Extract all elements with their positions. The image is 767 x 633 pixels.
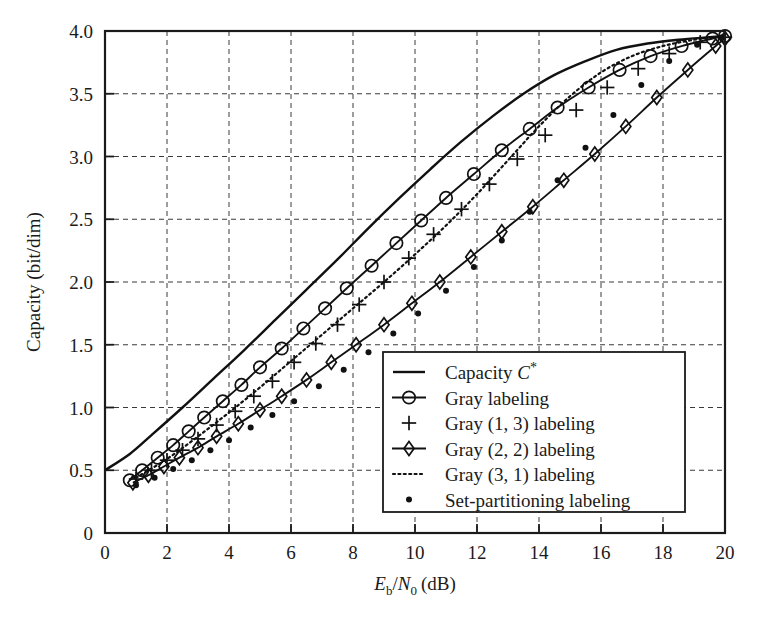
x-tick-label: 2	[162, 542, 172, 563]
marker-dot	[471, 264, 477, 270]
legend-item-label: Gray (2, 2) labeling	[445, 439, 595, 461]
marker-plus	[538, 128, 552, 142]
x-axis-eb-symbol: E	[373, 573, 386, 594]
marker-plus	[482, 177, 496, 191]
marker-dot	[406, 497, 412, 503]
y-tick-label: 3.5	[69, 84, 93, 105]
marker-dot	[666, 58, 672, 64]
y-axis-title: Capacity (bit/dim)	[23, 212, 45, 352]
x-tick-label: 16	[592, 542, 611, 563]
marker-dot	[610, 112, 616, 118]
y-tick-label: 2.5	[69, 209, 93, 230]
x-axis-0-subscript: 0	[410, 583, 417, 598]
marker-dot	[341, 367, 347, 373]
marker-dot	[443, 288, 449, 294]
x-tick-label: 20	[716, 542, 735, 563]
legend-item-label: Gray (1, 3) labeling	[445, 413, 595, 435]
marker-dot	[366, 349, 372, 355]
x-tick-label: 4	[224, 542, 234, 563]
x-tick-label: 6	[286, 542, 296, 563]
marker-dot	[170, 466, 176, 472]
capacity-chart-figure: 02468101214161820 00.51.01.52.02.53.03.5…	[0, 0, 767, 633]
marker-dot	[269, 412, 275, 418]
x-tick-label: 14	[530, 542, 550, 563]
marker-dot	[555, 177, 561, 183]
y-tick-label: 1.0	[69, 398, 93, 419]
marker-plus	[600, 80, 614, 94]
marker-dot	[638, 82, 644, 88]
x-axis-title: Eb/N0(dB)	[373, 573, 455, 598]
marker-dot	[316, 383, 322, 389]
x-tick-label: 0	[100, 542, 110, 563]
legend-capacity-star: *	[530, 360, 537, 375]
y-tick-label: 1.5	[69, 335, 93, 356]
marker-plus	[569, 103, 583, 117]
x-axis-unit: (dB)	[421, 573, 456, 595]
y-tick-label: 0	[84, 523, 94, 544]
y-tick-label: 2.0	[69, 272, 93, 293]
legend-item-label: Set-partitioning labeling	[445, 490, 631, 511]
marker-dot	[152, 475, 158, 481]
legend-capacity-symbol: C	[517, 362, 530, 383]
marker-dot	[133, 482, 139, 488]
y-tick-labels: 00.51.01.52.02.53.03.54.0	[69, 21, 93, 544]
x-tick-label: 8	[348, 542, 358, 563]
marker-plus	[352, 297, 366, 311]
marker-dot	[291, 398, 297, 404]
y-tick-label: 4.0	[69, 21, 93, 42]
legend-capacity-word: Capacity	[445, 362, 517, 383]
marker-dot	[226, 437, 232, 443]
x-axis-title-text: Eb/N0(dB)	[373, 573, 455, 598]
marker-plus	[426, 227, 440, 241]
marker-dot	[207, 447, 213, 453]
marker-dot	[248, 425, 254, 431]
y-tick-label: 0.5	[69, 460, 93, 481]
x-tick-label: 10	[406, 542, 425, 563]
y-tick-label: 3.0	[69, 147, 93, 168]
chart-svg: 02468101214161820 00.51.01.52.02.53.03.5…	[0, 0, 767, 633]
legend-item-label: Capacity C*	[445, 360, 537, 383]
legend-item-label: Gray labeling	[445, 388, 549, 409]
marker-dot	[415, 310, 421, 316]
legend-item-label: Gray (3, 1) labeling	[445, 464, 595, 486]
marker-dot	[390, 330, 396, 336]
x-tick-label: 18	[654, 542, 673, 563]
y-axis-title-text: Capacity (bit/dim)	[23, 212, 45, 352]
marker-dot	[694, 42, 700, 48]
legend: Capacity C*Gray labelingGray (1, 3) labe…	[383, 352, 685, 512]
marker-dot	[189, 457, 195, 463]
marker-dot	[499, 238, 505, 244]
x-tick-labels: 02468101214161820	[100, 542, 734, 563]
x-tick-label: 12	[468, 542, 487, 563]
marker-dot	[527, 209, 533, 215]
marker-plus	[402, 251, 416, 265]
marker-dot	[583, 145, 589, 151]
